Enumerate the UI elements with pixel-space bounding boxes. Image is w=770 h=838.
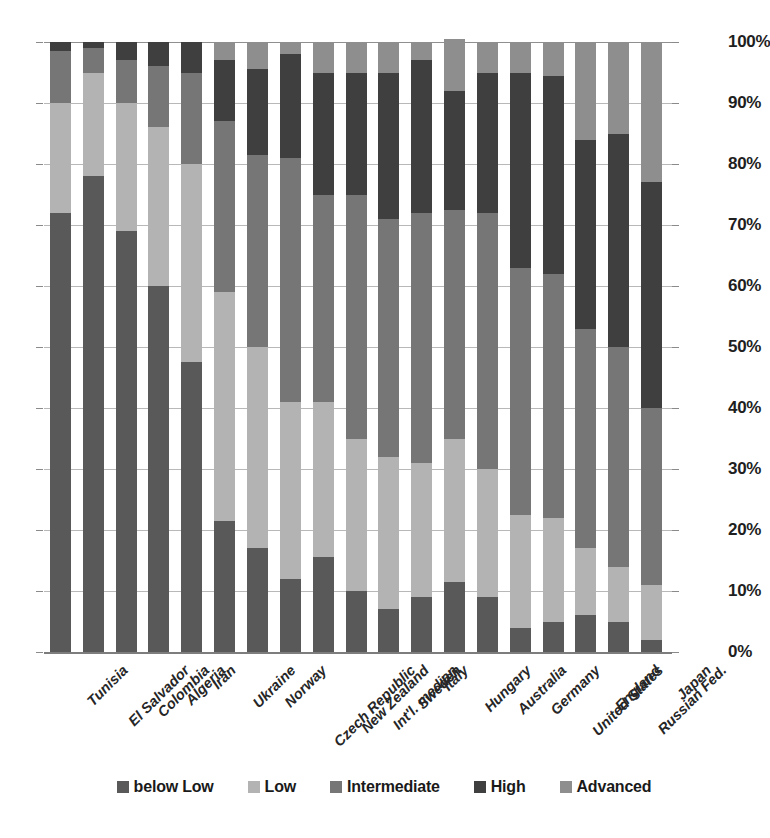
- legend-swatch-icon: [474, 781, 486, 793]
- bar-segment-intermediate: [575, 329, 596, 549]
- bar-segment-intermediate: [214, 121, 235, 292]
- y-tick-40: [36, 408, 43, 409]
- bar-segment-intermediate: [50, 51, 71, 103]
- bar-segment-below-low: [313, 557, 334, 652]
- bar-segment-low: [116, 103, 137, 231]
- bar-england[interactable]: [575, 42, 596, 652]
- bar-segment-low: [346, 439, 367, 592]
- bar-norway[interactable]: [247, 42, 268, 652]
- chart-legend: below LowLowIntermediateHighAdvanced: [0, 778, 768, 796]
- y-tick-50: [672, 347, 679, 348]
- bar-segment-high: [510, 73, 531, 268]
- bar-segment-low: [181, 164, 202, 362]
- y-tick-30: [36, 469, 43, 470]
- bar-segment-intermediate: [83, 48, 104, 72]
- bar-segment-low: [214, 292, 235, 521]
- bar-tunisia[interactable]: [50, 42, 71, 652]
- y-tick-40: [672, 408, 679, 409]
- bar-segment-high: [477, 73, 498, 213]
- bar-segment-below-low: [247, 548, 268, 652]
- legend-swatch-icon: [560, 781, 572, 793]
- y-tick-20: [36, 530, 43, 531]
- bar-colombia[interactable]: [116, 42, 137, 652]
- bar-germany[interactable]: [510, 42, 531, 652]
- x-axis-label-tunisia: Tunisia: [84, 662, 131, 709]
- legend-item-advanced[interactable]: Advanced: [560, 778, 652, 796]
- bar-segment-advanced: [313, 42, 334, 73]
- bar-segment-high: [148, 42, 169, 66]
- legend-label: Intermediate: [347, 778, 440, 796]
- y-axis-tick-label: 70%: [728, 215, 761, 235]
- bar-el-salvador[interactable]: [83, 42, 104, 652]
- legend-label: High: [491, 778, 526, 796]
- y-tick-70: [36, 225, 43, 226]
- legend-item-low[interactable]: Low: [248, 778, 296, 796]
- bar-segment-below-low: [641, 640, 662, 652]
- bar-japan[interactable]: [641, 42, 662, 652]
- y-tick-30: [672, 469, 679, 470]
- bar-new-zealand[interactable]: [313, 42, 334, 652]
- bar-segment-intermediate: [346, 195, 367, 439]
- bar-segment-high: [247, 69, 268, 154]
- bar-segment-advanced: [346, 42, 367, 73]
- bar-segment-low: [608, 567, 629, 622]
- bar-segment-advanced: [247, 42, 268, 69]
- bar-segment-below-low: [510, 628, 531, 652]
- bar-segment-below-low: [378, 609, 399, 652]
- bar-ukraine[interactable]: [214, 42, 235, 652]
- bar-segment-below-low: [214, 521, 235, 652]
- bar-segment-high: [50, 42, 71, 51]
- y-tick-60: [672, 286, 679, 287]
- bar-algeria[interactable]: [148, 42, 169, 652]
- y-tick-70: [672, 225, 679, 226]
- bar-sweden[interactable]: [378, 42, 399, 652]
- bar-segment-high: [214, 60, 235, 121]
- bar-int-l-median[interactable]: [346, 42, 367, 652]
- bar-segment-below-low: [543, 622, 564, 653]
- bar-segment-below-low: [411, 597, 432, 652]
- bar-segment-high: [83, 42, 104, 48]
- bar-segment-low: [477, 469, 498, 597]
- y-tick-80: [36, 164, 43, 165]
- y-tick-10: [672, 591, 679, 592]
- bar-segment-high: [346, 73, 367, 195]
- legend-item-high[interactable]: High: [474, 778, 526, 796]
- y-axis-tick-label: 80%: [728, 154, 761, 174]
- legend-swatch-icon: [330, 781, 342, 793]
- bar-segment-below-low: [575, 615, 596, 652]
- bar-segment-low: [641, 585, 662, 640]
- bar-segment-low: [411, 463, 432, 597]
- y-tick-100: [672, 42, 679, 43]
- bar-segment-low: [313, 402, 334, 558]
- bar-segment-advanced: [411, 42, 432, 60]
- bar-segment-below-low: [148, 286, 169, 652]
- bar-segment-intermediate: [313, 195, 334, 402]
- bar-hungary[interactable]: [444, 42, 465, 652]
- bar-segment-high: [280, 54, 301, 158]
- bar-segment-below-low: [444, 582, 465, 652]
- y-axis-tick-label: 100%: [728, 32, 770, 52]
- bar-segment-low: [575, 548, 596, 615]
- bar-segment-advanced: [214, 42, 235, 60]
- bar-australia[interactable]: [477, 42, 498, 652]
- bar-segment-advanced: [641, 42, 662, 182]
- y-tick-0: [36, 652, 43, 653]
- legend-label: Low: [265, 778, 296, 796]
- bar-iran[interactable]: [181, 42, 202, 652]
- bar-segment-high: [641, 182, 662, 408]
- bar-segment-high: [444, 91, 465, 210]
- y-axis-tick-label: 10%: [728, 581, 761, 601]
- legend-item-intermediate[interactable]: Intermediate: [330, 778, 440, 796]
- bar-segment-low: [510, 515, 531, 628]
- bar-italy[interactable]: [411, 42, 432, 652]
- bar-segment-intermediate: [641, 408, 662, 585]
- y-axis-tick-label: 30%: [728, 459, 761, 479]
- bar-segment-intermediate: [477, 213, 498, 469]
- bar-united-states[interactable]: [543, 42, 564, 652]
- bar-russian-fed[interactable]: [608, 42, 629, 652]
- legend-item-below-low[interactable]: below Low: [117, 778, 214, 796]
- bar-segment-high: [181, 42, 202, 73]
- bar-segment-high: [116, 42, 137, 60]
- bar-czech-republic[interactable]: [280, 42, 301, 652]
- bar-segment-below-low: [280, 579, 301, 652]
